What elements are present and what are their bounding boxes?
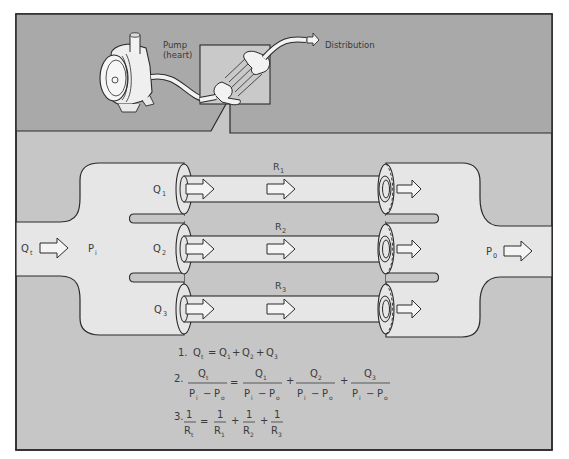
- svg-text:−: −: [258, 388, 266, 399]
- svg-text:P: P: [189, 388, 195, 399]
- svg-text:o: o: [221, 394, 225, 401]
- svg-text:Q: Q: [266, 347, 274, 358]
- svg-text:Q: Q: [153, 243, 161, 254]
- svg-text:Q: Q: [153, 184, 161, 195]
- svg-text:0: 0: [493, 252, 497, 260]
- svg-text:i: i: [95, 249, 97, 257]
- svg-text:3: 3: [372, 374, 376, 381]
- svg-text:Q: Q: [21, 243, 29, 254]
- svg-text:3: 3: [282, 286, 286, 294]
- svg-text:3.: 3.: [174, 411, 184, 422]
- svg-text:P: P: [269, 388, 275, 399]
- svg-text:1: 1: [246, 409, 252, 420]
- svg-text:1: 1: [227, 353, 231, 360]
- svg-text:1: 1: [186, 409, 192, 420]
- pump-label: Pump: [163, 40, 187, 50]
- svg-text:R: R: [243, 425, 250, 436]
- svg-text:3: 3: [163, 310, 167, 318]
- svg-text:P: P: [322, 388, 328, 399]
- svg-text:R: R: [184, 425, 191, 436]
- svg-text:Q: Q: [255, 368, 263, 379]
- svg-text:+: +: [256, 347, 264, 358]
- parallel-resistance-diagram: Pump (heart) Distribution: [0, 0, 569, 459]
- svg-text:R: R: [271, 425, 278, 436]
- svg-text:2: 2: [318, 374, 322, 381]
- svg-text:1: 1: [280, 167, 284, 175]
- svg-text:−: −: [311, 388, 319, 399]
- svg-text:P: P: [486, 246, 492, 257]
- svg-text:o: o: [329, 394, 333, 401]
- svg-text:R: R: [275, 280, 282, 291]
- svg-text:2.: 2.: [174, 373, 184, 384]
- svg-text:3: 3: [278, 431, 282, 438]
- svg-text:=: =: [230, 377, 238, 388]
- svg-text:Q: Q: [310, 368, 318, 379]
- top-panel: [16, 14, 552, 133]
- svg-text:2: 2: [250, 353, 254, 360]
- svg-text:1: 1: [217, 409, 223, 420]
- svg-text:=: =: [200, 416, 208, 427]
- svg-text:2: 2: [282, 227, 286, 235]
- svg-text:P: P: [377, 388, 383, 399]
- svg-text:Q: Q: [154, 304, 162, 315]
- svg-text:R: R: [273, 161, 280, 172]
- svg-text:+: +: [340, 375, 348, 386]
- svg-text:P: P: [244, 388, 250, 399]
- svg-text:1.: 1.: [178, 347, 188, 358]
- distribution-label: Distribution: [325, 40, 375, 50]
- svg-text:1: 1: [221, 431, 225, 438]
- svg-text:+: +: [260, 415, 268, 426]
- svg-text:P: P: [214, 388, 220, 399]
- svg-text:1: 1: [263, 374, 267, 381]
- pump-sublabel: (heart): [163, 50, 192, 60]
- svg-text:Q: Q: [198, 368, 206, 379]
- svg-text:R: R: [214, 425, 221, 436]
- svg-text:Q: Q: [364, 368, 372, 379]
- svg-text:−: −: [203, 388, 211, 399]
- svg-text:3: 3: [274, 353, 278, 360]
- svg-text:t: t: [30, 249, 33, 257]
- svg-text:2: 2: [250, 431, 254, 438]
- svg-text:1: 1: [274, 409, 280, 420]
- svg-text:1: 1: [162, 190, 166, 198]
- svg-text:P: P: [88, 243, 94, 254]
- svg-text:+: +: [286, 375, 294, 386]
- svg-text:R: R: [275, 221, 282, 232]
- svg-text:2: 2: [162, 249, 166, 257]
- svg-text:+: +: [231, 415, 239, 426]
- svg-text:P: P: [352, 388, 358, 399]
- svg-text:P: P: [297, 388, 303, 399]
- svg-text:Q: Q: [219, 347, 227, 358]
- svg-text:o: o: [384, 394, 388, 401]
- svg-text:Q: Q: [242, 347, 250, 358]
- svg-text:+: +: [232, 347, 240, 358]
- svg-text:=: =: [208, 347, 216, 358]
- svg-text:o: o: [276, 394, 280, 401]
- svg-text:−: −: [366, 388, 374, 399]
- svg-text:Q: Q: [193, 347, 201, 358]
